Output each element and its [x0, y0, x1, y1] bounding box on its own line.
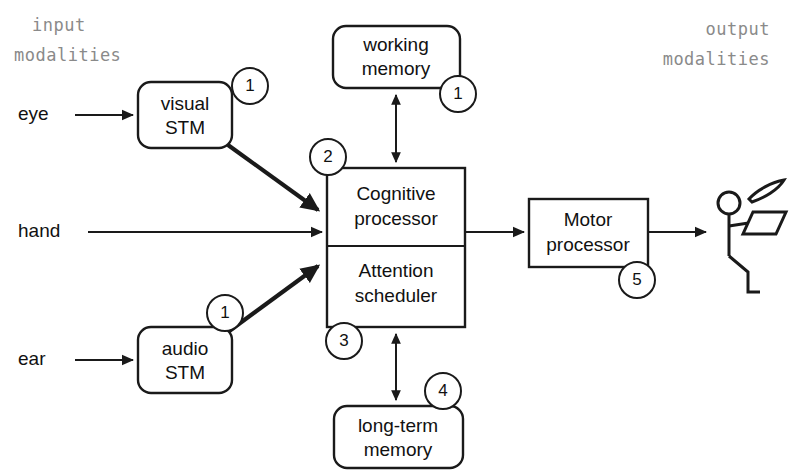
stick-figure-stylus — [749, 180, 784, 202]
input-modalities-header: input modalities — [14, 15, 121, 65]
box-attention-scheduler[interactable]: Attention scheduler — [327, 246, 465, 327]
output-header-line2: modalities — [663, 49, 770, 69]
input-label-hand: hand — [18, 220, 60, 241]
output-header-line1: output — [706, 19, 770, 39]
badge-working-memory-number: 1 — [453, 84, 462, 103]
box-motor-processor[interactable]: Motor processor — [529, 199, 648, 267]
longterm-memory-label-line2: memory — [364, 439, 433, 460]
badge-visual-stm-number: 1 — [245, 76, 254, 95]
badge-cognitive-processor: 2 — [310, 139, 346, 175]
output-modalities-header: output modalities — [663, 19, 770, 69]
arrow-visual-stm-to-cognitive — [228, 145, 318, 210]
attention-scheduler-label-line1: Attention — [359, 260, 434, 281]
cognitive-processor-hitarea[interactable] — [327, 168, 465, 246]
badge-attention-scheduler: 3 — [326, 323, 362, 359]
badge-motor-processor: 5 — [619, 262, 655, 298]
user-stick-figure-icon — [718, 180, 786, 292]
diagram-canvas: input modalities output modalities eye h… — [0, 0, 789, 476]
longterm-memory-label-line1: long-term — [358, 415, 438, 436]
box-audio-stm[interactable]: audio STM — [138, 327, 232, 393]
input-label-ear: ear — [18, 348, 46, 369]
motor-processor-label-line1: Motor — [564, 209, 613, 230]
visual-stm-outline — [138, 82, 232, 148]
badge-motor-number: 5 — [632, 270, 641, 289]
badge-longterm-number: 4 — [438, 381, 447, 400]
badge-attention-number: 3 — [339, 331, 348, 350]
stick-figure-head — [718, 192, 740, 214]
box-cognitive-processor[interactable]: Cognitive processor — [327, 168, 465, 246]
badge-audio-stm-number: 1 — [220, 303, 229, 322]
badge-longterm-memory: 4 — [425, 373, 461, 409]
working-memory-label-line1: working — [362, 34, 428, 55]
visual-stm-label-line2: STM — [165, 117, 205, 138]
input-label-eye: eye — [18, 103, 49, 124]
badge-audio-stm: 1 — [207, 295, 243, 331]
box-working-memory[interactable]: working memory — [333, 26, 460, 88]
model-human-processor-diagram: input modalities output modalities eye h… — [0, 0, 789, 476]
input-header-line1: input — [32, 15, 86, 35]
audio-stm-outline — [138, 327, 232, 393]
motor-processor-label-line2: processor — [546, 234, 630, 255]
audio-stm-label-line1: audio — [162, 338, 209, 359]
audio-stm-label-line2: STM — [165, 362, 205, 383]
stick-figure-tablet — [743, 212, 786, 234]
attention-scheduler-label-line2: scheduler — [355, 285, 438, 306]
badge-visual-stm: 1 — [232, 68, 268, 104]
badge-cognitive-number: 2 — [323, 147, 332, 166]
cognitive-processor-label-line2: processor — [354, 208, 438, 229]
cognitive-processor-label-line1: Cognitive — [356, 183, 435, 204]
box-longterm-memory[interactable]: long-term memory — [334, 406, 463, 468]
stick-figure-legs — [729, 256, 760, 292]
badge-working-memory: 1 — [440, 76, 476, 112]
input-header-line2: modalities — [14, 45, 121, 65]
visual-stm-label-line1: visual — [161, 93, 210, 114]
box-visual-stm[interactable]: visual STM — [138, 82, 232, 148]
working-memory-label-line2: memory — [362, 58, 431, 79]
